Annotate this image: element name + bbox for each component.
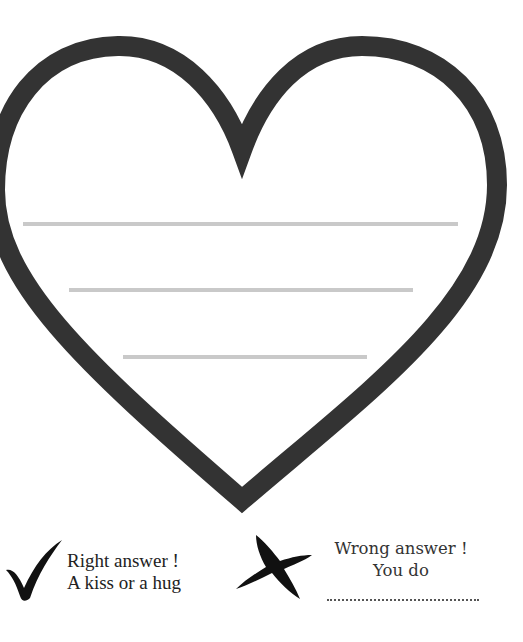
wrong-answer-label: Wrong answer ! You do bbox=[322, 538, 480, 582]
cross-icon bbox=[234, 533, 314, 603]
wrong-answer-line2: You do bbox=[322, 560, 480, 582]
right-answer-label: Right answer ! A kiss or a hug bbox=[67, 550, 181, 594]
writing-line-2[interactable] bbox=[69, 288, 413, 292]
writing-line-1[interactable] bbox=[23, 222, 458, 226]
wrong-answer-blank-line[interactable] bbox=[327, 599, 479, 601]
wrong-answer-line1: Wrong answer ! bbox=[322, 538, 480, 560]
right-answer-line2: A kiss or a hug bbox=[67, 572, 181, 594]
right-answer-line1: Right answer ! bbox=[67, 550, 181, 572]
writing-line-3[interactable] bbox=[123, 355, 367, 359]
checkmark-icon bbox=[4, 538, 64, 602]
